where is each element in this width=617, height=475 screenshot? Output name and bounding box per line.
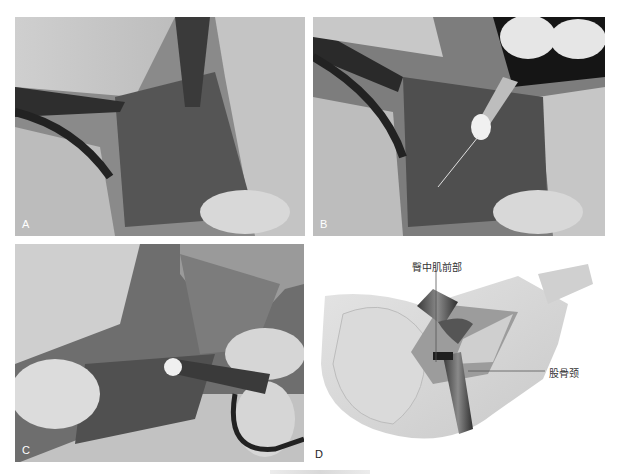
surgical-photo-b bbox=[313, 17, 605, 236]
panel-d-illustration: 臀中肌前部 股骨颈 D bbox=[313, 244, 617, 462]
panel-label-c: C bbox=[22, 444, 30, 456]
panel-label-b: B bbox=[320, 218, 327, 230]
panel-b-photo: B bbox=[313, 17, 605, 236]
surgical-photo-c bbox=[15, 244, 304, 462]
figure-caption-cropped bbox=[270, 470, 370, 474]
annotation-gluteus-medius-anterior: 臀中肌前部 bbox=[412, 259, 462, 274]
panel-label-d: D bbox=[315, 448, 323, 460]
annotation-femoral-neck: 股骨颈 bbox=[549, 365, 579, 380]
panel-a-photo: A bbox=[15, 17, 305, 236]
hip-exposure-illustration bbox=[313, 244, 617, 462]
panel-label-a: A bbox=[22, 218, 29, 230]
panel-c-photo: C bbox=[15, 244, 304, 462]
surgical-photo-a bbox=[15, 17, 305, 236]
